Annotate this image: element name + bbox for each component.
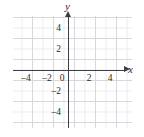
y-tick-label-minus4: –4 xyxy=(45,108,61,118)
x-axis-line xyxy=(13,70,126,71)
x-tick-label-2: 2 xyxy=(87,74,92,84)
y-tick-label-4: 4 xyxy=(47,24,61,34)
origin-label: 0 xyxy=(60,74,65,84)
x-tick-label-minus4: –4 xyxy=(21,74,31,84)
x-tick-label-4: 4 xyxy=(108,74,113,84)
y-tick-label-minus2: –2 xyxy=(45,87,61,97)
y-axis-line xyxy=(68,16,69,128)
y-tick-label-2: 2 xyxy=(47,45,61,55)
x-axis-label: x xyxy=(128,64,133,75)
y-axis-label: y xyxy=(65,1,70,12)
major-gridlines xyxy=(13,16,132,129)
x-tick-label-minus2: –2 xyxy=(42,74,52,84)
coordinate-plane-figure: x y –4 –2 0 2 4 4 2 –2 –4 xyxy=(0,0,144,137)
